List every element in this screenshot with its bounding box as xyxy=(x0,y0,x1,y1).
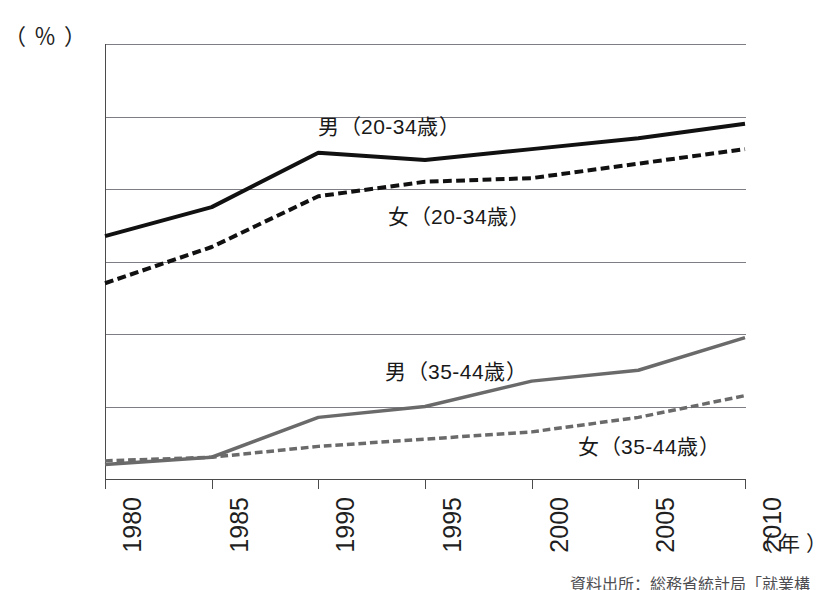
x-tick-label-1990: 1990 xyxy=(331,497,360,553)
gridline-60 xyxy=(106,44,746,45)
series-label-female-20-34: 女（20-34歳） xyxy=(388,200,530,230)
source-note: 資料出所：総務省統計局「就業構 xyxy=(570,571,810,590)
x-tick-label-2000: 2000 xyxy=(545,497,574,553)
x-tick-label-1985: 1985 xyxy=(225,497,254,553)
x-tick-1995 xyxy=(425,479,426,489)
gridline-10 xyxy=(106,407,746,408)
x-tick-2000 xyxy=(532,479,533,489)
x-tick-label-2005: 2005 xyxy=(651,497,680,553)
gridline-40 xyxy=(106,189,746,190)
x-tick-1980 xyxy=(105,479,106,489)
x-tick-2010 xyxy=(745,479,746,489)
series-label-female-35-44: 女（35-44歳） xyxy=(578,430,720,460)
cropped-title-text xyxy=(66,0,366,6)
series-label-male-35-44: 男（35-44歳） xyxy=(385,355,527,385)
y-axis-tick-labels: 0102030405060 xyxy=(0,0,96,590)
x-tick-label-2010: 2010 xyxy=(758,497,787,553)
x-tick-1990 xyxy=(318,479,319,489)
gridline-30 xyxy=(106,262,746,263)
series-label-male-20-34: 男（20-34歳） xyxy=(318,110,460,140)
x-tick-label-1980: 1980 xyxy=(118,497,147,553)
x-tick-label-1995: 1995 xyxy=(438,497,467,553)
x-tick-2005 xyxy=(638,479,639,489)
gridline-20 xyxy=(106,334,746,335)
x-tick-1985 xyxy=(212,479,213,489)
